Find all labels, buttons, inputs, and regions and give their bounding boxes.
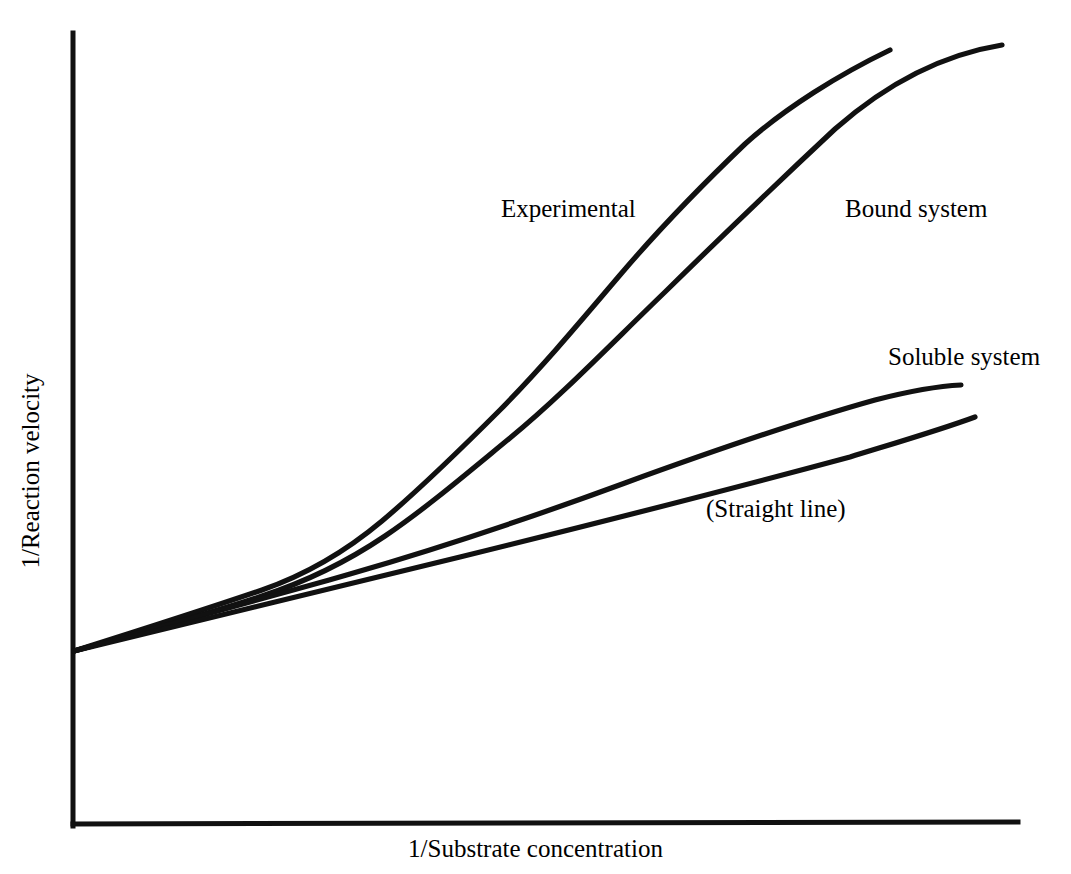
series-label-experimental: Experimental: [501, 196, 636, 222]
y-axis-title: 1/Reaction velocity: [17, 321, 45, 621]
series-label-straight-line: (Straight line): [706, 496, 846, 522]
series-line-experimental: [74, 50, 890, 651]
chart-figure: Experimental Bound system Soluble system…: [0, 0, 1071, 874]
series-label-soluble-system: Soluble system: [888, 344, 1040, 370]
chart-plot-area: [0, 0, 1071, 874]
series-line-straight-line: [74, 417, 975, 651]
x-axis-title: 1/Substrate concentration: [0, 835, 1071, 863]
x-axis-line: [73, 822, 1018, 824]
series-line-bound-system: [74, 45, 1002, 651]
series-label-bound-system: Bound system: [845, 196, 987, 222]
